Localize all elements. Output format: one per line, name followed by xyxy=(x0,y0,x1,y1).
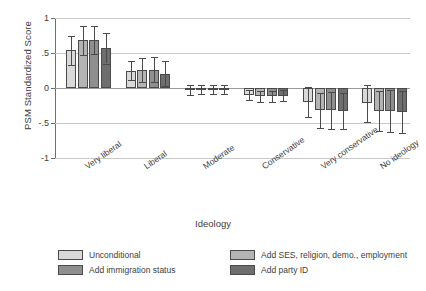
error-bar-cap xyxy=(162,86,169,87)
bar-group xyxy=(66,18,111,158)
error-bar-cap xyxy=(317,128,324,129)
error-bar xyxy=(71,36,72,65)
error-bar-cap xyxy=(91,26,98,27)
error-bar xyxy=(131,61,132,80)
legend-label: Add SES, religion, demo., employment xyxy=(261,250,407,260)
legend-swatch xyxy=(58,250,83,260)
error-bar-cap xyxy=(80,26,87,27)
error-bar xyxy=(367,85,368,121)
error-bar-cap xyxy=(151,82,158,83)
error-bar-cap xyxy=(91,54,98,55)
error-bar-cap xyxy=(399,91,406,92)
error-bar xyxy=(320,93,321,128)
error-bar-cap xyxy=(280,90,287,91)
error-bar-cap xyxy=(328,92,335,93)
error-bar-cap xyxy=(246,100,253,101)
legend-item[interactable]: Add immigration status xyxy=(58,262,230,277)
error-bar-cap xyxy=(269,102,276,103)
error-bar-cap xyxy=(399,133,406,134)
error-bar-cap xyxy=(340,93,347,94)
legend-item[interactable]: Unconditional xyxy=(58,247,230,262)
error-bar xyxy=(213,85,214,95)
error-bar-cap xyxy=(257,91,264,92)
error-bar-cap xyxy=(387,132,394,133)
error-bar xyxy=(260,91,261,102)
error-bar xyxy=(154,57,155,82)
legend-label: Add immigration status xyxy=(89,265,175,275)
error-bar-cap xyxy=(210,85,217,86)
error-bar-cap xyxy=(151,57,158,58)
legend-label: Add party ID xyxy=(261,265,308,275)
error-bar-cap xyxy=(305,117,312,118)
error-bar xyxy=(224,85,225,95)
error-bar-cap xyxy=(103,33,110,34)
error-bar-cap xyxy=(221,85,228,86)
y-axis-title: PSM Standardized Score xyxy=(22,0,33,156)
y-axis-tick xyxy=(51,18,55,19)
error-bar xyxy=(390,90,391,132)
y-axis-tick-label: -1 xyxy=(41,153,49,163)
error-bar-cap xyxy=(317,93,324,94)
error-bar xyxy=(283,90,284,101)
y-axis-tick-label: .5 xyxy=(41,48,49,58)
error-bar-cap xyxy=(187,85,194,86)
error-bar xyxy=(94,26,95,55)
error-bar-cap xyxy=(376,91,383,92)
y-axis-tick-label: 1 xyxy=(44,13,49,23)
error-bar xyxy=(83,26,84,55)
y-axis-tick xyxy=(51,123,55,124)
error-bar-cap xyxy=(305,87,312,88)
error-bar xyxy=(165,61,166,86)
error-bar-cap xyxy=(221,94,228,95)
error-bar-cap xyxy=(187,95,194,96)
legend-swatch xyxy=(58,265,83,275)
error-bar-cap xyxy=(280,101,287,102)
y-axis-tick xyxy=(51,88,55,89)
error-bar xyxy=(402,91,403,133)
error-bar-cap xyxy=(340,129,347,130)
error-bar-cap xyxy=(139,82,146,83)
bar-group xyxy=(185,18,230,158)
bar-group xyxy=(303,18,348,158)
error-bar xyxy=(190,85,191,95)
legend-label: Unconditional xyxy=(89,250,141,260)
error-bar-cap xyxy=(257,102,264,103)
error-bar-cap xyxy=(210,94,217,95)
error-bar-cap xyxy=(198,85,205,86)
error-bar-cap xyxy=(387,90,394,91)
error-bar-cap xyxy=(364,85,371,86)
error-bar xyxy=(201,85,202,95)
bar-group xyxy=(126,18,171,158)
error-bar-cap xyxy=(269,91,276,92)
error-bar xyxy=(249,90,250,100)
error-bar-cap xyxy=(139,58,146,59)
error-bar-cap xyxy=(128,80,135,81)
gridline xyxy=(55,158,410,159)
error-bar xyxy=(272,91,273,102)
error-bar-cap xyxy=(68,36,75,37)
error-bar xyxy=(106,33,107,64)
error-bar-cap xyxy=(246,90,253,91)
error-bar-cap xyxy=(328,129,335,130)
legend-item[interactable]: Add party ID xyxy=(230,262,418,277)
y-axis-tick xyxy=(51,53,55,54)
error-bar-cap xyxy=(198,94,205,95)
chart-container: PSM Standardized Score 1.50-.5-1 Ideolog… xyxy=(0,0,426,291)
error-bar xyxy=(331,92,332,128)
error-bar xyxy=(308,87,309,117)
error-bar xyxy=(379,91,380,132)
x-axis-title: Ideology xyxy=(0,218,426,229)
legend-item[interactable]: Add SES, religion, demo., employment xyxy=(230,247,418,262)
y-axis-tick-label: 0 xyxy=(44,83,49,93)
bar-group xyxy=(244,18,289,158)
error-bar-cap xyxy=(128,61,135,62)
legend-swatch xyxy=(230,265,255,275)
chart-legend: UnconditionalAdd SES, religion, demo., e… xyxy=(58,247,418,277)
error-bar xyxy=(142,58,143,82)
y-axis-tick xyxy=(51,158,55,159)
error-bar-cap xyxy=(162,61,169,62)
error-bar xyxy=(343,93,344,129)
error-bar-cap xyxy=(364,122,371,123)
error-bar-cap xyxy=(80,55,87,56)
error-bar-cap xyxy=(103,64,110,65)
